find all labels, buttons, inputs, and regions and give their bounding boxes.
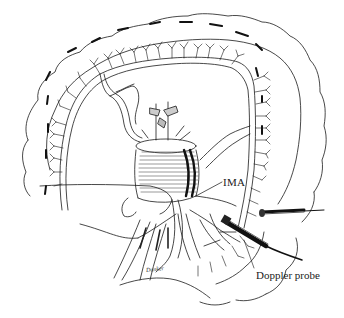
- ima-label: IMA: [223, 177, 245, 188]
- ima-pointer-line: [196, 182, 222, 196]
- doppler-probe-label: Doppler probe: [256, 270, 320, 281]
- doppler-probe-upper: [259, 209, 324, 217]
- colon-inner-wall: [47, 39, 301, 284]
- doppler-probe-lower: [221, 215, 302, 260]
- vasa-recta: [50, 42, 270, 276]
- colon-outer-wall: [23, 14, 327, 305]
- surgical-illustration: IMA Doppler probe Dunker: [0, 0, 344, 318]
- aorta: [135, 102, 199, 202]
- iliac-vessels: [114, 200, 210, 298]
